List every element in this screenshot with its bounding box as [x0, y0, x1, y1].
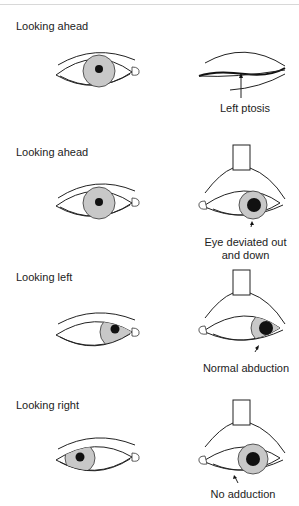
left-eye-lid-held-3: [195, 268, 290, 358]
lower-fold: [230, 74, 285, 90]
caruncle: [199, 326, 207, 334]
pupil: [111, 325, 120, 334]
left-eye-ptosis: [195, 48, 290, 93]
brow-left: [205, 423, 233, 447]
row-label-4: Looking right: [16, 399, 79, 411]
right-eye-looking-ahead-2: [50, 176, 145, 226]
caption-eye-deviated: Eye deviated out and down: [198, 236, 293, 262]
right-eye-looking-left: [50, 310, 145, 360]
left-eye-lid-held-4: [195, 395, 290, 485]
lid-retractor-finger: [233, 270, 250, 295]
pupil: [247, 198, 261, 212]
eyelid-crease: [58, 438, 135, 449]
lid-retractor-finger: [233, 145, 250, 170]
caruncle: [132, 67, 139, 75]
pointer-arrowhead: [250, 221, 254, 225]
brow-left: [205, 293, 233, 318]
pointer-arrowhead: [233, 475, 237, 479]
caption-line-2: and down: [198, 249, 293, 262]
pupil: [95, 65, 103, 73]
caruncle: [132, 198, 139, 206]
right-eye-looking-ahead-1: [50, 45, 145, 95]
row-label-1: Looking ahead: [16, 20, 88, 32]
pointer-arrowhead: [255, 345, 259, 350]
caruncle: [199, 456, 207, 464]
row-label-2: Looking ahead: [16, 146, 88, 158]
right-eye-looking-right: [50, 435, 145, 485]
pupil: [76, 453, 85, 462]
caruncle: [132, 328, 139, 336]
caption-left-ptosis: Left ptosis: [205, 102, 285, 115]
caruncle: [199, 201, 207, 209]
eyelid-crease: [58, 313, 135, 324]
pupil: [246, 452, 260, 466]
caption-line-1: Eye deviated out: [198, 236, 293, 249]
caption-normal-abduction: Normal abduction: [196, 362, 296, 375]
left-eye-lid-held-2: [195, 143, 290, 233]
top-rule: [0, 4, 299, 5]
brow-left: [205, 168, 233, 193]
lid-retractor-finger: [233, 400, 250, 425]
pupil: [259, 321, 273, 335]
brow-crease: [205, 52, 285, 66]
pupil: [95, 198, 103, 206]
caruncle: [132, 453, 139, 461]
caption-no-adduction: No adduction: [198, 488, 288, 501]
row-label-3: Looking left: [16, 271, 72, 283]
